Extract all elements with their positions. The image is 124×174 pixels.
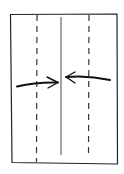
origami-fold-diagram xyxy=(0,0,124,174)
paper-sheet-outline xyxy=(11,14,118,164)
